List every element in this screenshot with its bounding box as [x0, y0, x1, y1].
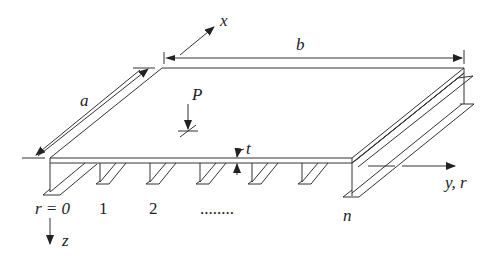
- stiffener-index-2: 2: [149, 199, 158, 218]
- stiffener-index-n: n: [343, 206, 352, 225]
- dimension-b: [164, 50, 464, 64]
- stiffener-r5: [298, 163, 328, 184]
- stiffener-index-r0: r = 0: [35, 199, 71, 218]
- stiffener-index-1: 1: [99, 199, 108, 218]
- x-axis-arrow: [180, 27, 214, 55]
- stiffener-r0: [43, 163, 97, 195]
- plate: [50, 68, 464, 163]
- width-b-label: b: [296, 35, 305, 54]
- stiffened-plate-diagram: x b a P t y, r z r = 0 1 2 ........ n: [0, 0, 499, 262]
- thickness-t-marker: [237, 149, 244, 175]
- y-axis-label: y, r: [443, 173, 467, 192]
- stiffener-r2: [146, 163, 176, 184]
- stiffener-r1: [96, 163, 126, 184]
- thickness-t-label: t: [246, 139, 252, 158]
- stiffener-index-ellipsis: ........: [200, 199, 234, 218]
- z-axis-label: z: [61, 231, 69, 250]
- x-axis-label: x: [219, 11, 228, 30]
- dimension-a: [22, 68, 155, 158]
- stiffener-r3: [196, 163, 226, 184]
- load-p-arrow: [178, 104, 198, 137]
- load-p-label: P: [191, 85, 202, 104]
- stiffener-r4: [248, 163, 278, 184]
- length-a-label: a: [80, 91, 89, 110]
